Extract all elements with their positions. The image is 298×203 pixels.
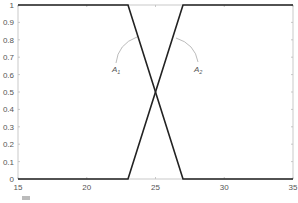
y-axis-ticks: 00.10.20.30.40.50.60.70.80.91 [3, 1, 293, 184]
series-line-ascending [18, 5, 293, 179]
y-tick-label: 0.8 [3, 36, 15, 45]
legend-fragment [22, 196, 30, 200]
y-tick-label: 0.2 [3, 140, 15, 149]
x-tick-label: 15 [14, 183, 23, 192]
y-tick-label: 0.6 [3, 71, 15, 80]
y-tick-label: 1 [10, 1, 15, 10]
x-axis-ticks: 1520253035 [14, 5, 298, 192]
x-tick-label: 25 [151, 183, 160, 192]
membership-function-chart: 00.10.20.30.40.50.60.70.80.91 1520253035… [0, 0, 298, 203]
x-tick-label: 35 [289, 183, 298, 192]
y-tick-label: 0.9 [3, 18, 15, 27]
y-tick-label: 0.4 [3, 105, 15, 114]
annotation-label-a1: A1 [111, 65, 120, 75]
annotation-arc-a1 [116, 37, 137, 63]
y-tick-label: 0.3 [3, 123, 15, 132]
annotation-arc-a2 [176, 38, 198, 62]
x-tick-label: 20 [82, 183, 91, 192]
data-series [18, 5, 293, 179]
x-tick-label: 30 [220, 183, 229, 192]
annotations: A1A2 [111, 37, 202, 75]
y-tick-label: 0.1 [3, 158, 15, 167]
annotation-label-a2: A2 [193, 65, 202, 75]
y-tick-label: 0.7 [3, 53, 15, 62]
y-tick-label: 0.5 [3, 88, 15, 97]
